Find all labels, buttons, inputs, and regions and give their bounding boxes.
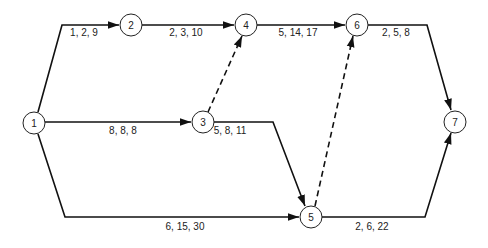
node-3: 3 [192, 111, 214, 133]
edge-label-1-2: 1, 2, 9 [70, 27, 98, 38]
svg-text:1: 1 [31, 118, 37, 129]
edge-1-5 [38, 134, 299, 217]
svg-text:6: 6 [354, 20, 360, 31]
network-diagram: 1, 2, 9 2, 3, 10 5, 14, 17 2, 5, 8 8, 8,… [0, 0, 488, 248]
node-5: 5 [300, 206, 322, 228]
node-7: 7 [444, 111, 466, 133]
edge-label-1-5: 6, 15, 30 [166, 221, 205, 232]
svg-text:4: 4 [243, 20, 249, 31]
node-4: 4 [235, 14, 257, 36]
svg-text:5: 5 [308, 212, 314, 223]
node-2: 2 [120, 14, 142, 36]
edge-label-1-3: 8, 8, 8 [109, 125, 137, 136]
diagram-canvas: 1, 2, 9 2, 3, 10 5, 14, 17 2, 5, 8 8, 8,… [0, 0, 488, 248]
edge-5-7 [322, 133, 451, 217]
node-1: 1 [23, 112, 45, 134]
edge-label-6-7: 2, 5, 8 [382, 27, 410, 38]
svg-text:7: 7 [452, 117, 458, 128]
edge-label-5-7: 2, 6, 22 [355, 221, 389, 232]
svg-text:3: 3 [200, 117, 206, 128]
edge-label-4-6: 5, 14, 17 [279, 27, 318, 38]
edge-label-2-4: 2, 3, 10 [169, 27, 203, 38]
node-6: 6 [346, 14, 368, 36]
edge-1-2 [38, 25, 119, 112]
edge-3-4-dummy [208, 36, 242, 112]
svg-text:2: 2 [128, 20, 134, 31]
edge-5-6-dummy [315, 36, 353, 206]
edge-label-3-5: 5, 8, 11 [214, 125, 247, 136]
